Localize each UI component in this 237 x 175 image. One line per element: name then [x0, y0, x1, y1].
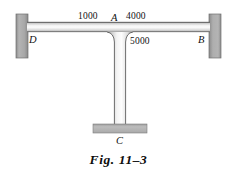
- dimension-label-column: 5000: [130, 37, 150, 47]
- frame-diagram-graphic: [0, 0, 237, 175]
- joint-label-a: A: [111, 13, 117, 24]
- figure-container: 1000 A 4000 5000 D B C Fig. 11–3: [0, 0, 237, 175]
- support-label-c: C: [116, 136, 123, 147]
- dimension-label-left-span: 1000: [78, 12, 98, 22]
- figure-caption: Fig. 11–3: [0, 152, 237, 168]
- support-label-b: B: [198, 35, 204, 46]
- support-label-d: D: [29, 35, 37, 46]
- support-block-right: [209, 14, 221, 58]
- base-plate-support-c: [93, 124, 147, 133]
- horizontal-beam-member: [27, 22, 210, 32]
- dimension-label-right-span: 4000: [126, 12, 146, 22]
- support-block-left: [16, 14, 28, 58]
